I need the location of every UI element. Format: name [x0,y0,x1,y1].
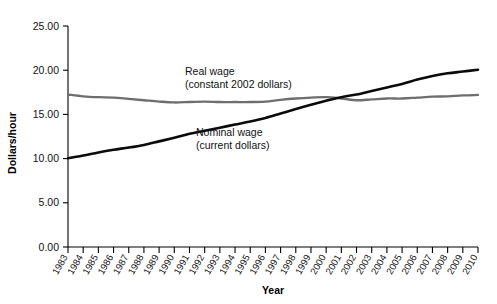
x-axis-tick-labels: 1983198419851986198719881989199019911992… [50,253,480,277]
annotation-real-wage-line2: (constant 2002 dollars) [185,78,292,90]
wage-line-chart: 0.005.0010.0015.0020.0025.00 19831984198… [0,0,497,304]
y-axis-ticks [63,26,68,247]
x-axis-title: Year [262,284,284,296]
y-axis: 0.005.0010.0015.0020.0025.00 [33,20,68,253]
annotation-nominal-wage-line1: Nominal wage [196,126,263,138]
x-axis: 1983198419851986198719881989199019911992… [50,247,480,276]
annotation-nominal-wage-line2: (current dollars) [196,139,270,151]
y-tick-label-15.00: 15.00 [33,108,59,120]
chart-canvas: 0.005.0010.0015.0020.0025.00 19831984198… [0,0,497,304]
y-tick-label-25.00: 25.00 [33,20,59,32]
y-tick-label-0.00: 0.00 [39,241,60,253]
x-axis-ticks [68,247,478,253]
y-tick-label-10.00: 10.00 [33,152,59,164]
y-tick-label-20.00: 20.00 [33,64,59,76]
y-axis-tick-labels: 0.005.0010.0015.0020.0025.00 [33,20,59,253]
annotation-real-wage-line1: Real wage [185,65,235,77]
y-axis-title: Dollars/hour [6,112,18,174]
x-tick-label-2010: 2010 [460,253,480,277]
y-tick-label-5.00: 5.00 [39,196,60,208]
series-line-real-wage [68,95,478,103]
